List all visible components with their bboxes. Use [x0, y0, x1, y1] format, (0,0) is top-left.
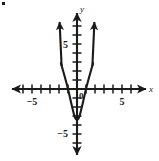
origin-label: 0: [79, 91, 84, 101]
coordinate-plane: −5 5 5 −5 0 x y: [0, 0, 159, 161]
y-tick-label-neg5: −5: [57, 128, 68, 139]
x-tick-label-pos5: 5: [120, 96, 125, 107]
x-axis-label: x: [148, 84, 153, 94]
parabola-right-arrowhead: [92, 22, 94, 66]
y-axis-label: y: [79, 4, 84, 14]
graph-figure: −5 5 5 −5 0 x y: [0, 0, 159, 161]
y-tick-label-pos5: 5: [63, 39, 68, 50]
parabola-left-arrowhead: [60, 22, 62, 66]
x-tick-label-neg5: −5: [27, 96, 38, 107]
